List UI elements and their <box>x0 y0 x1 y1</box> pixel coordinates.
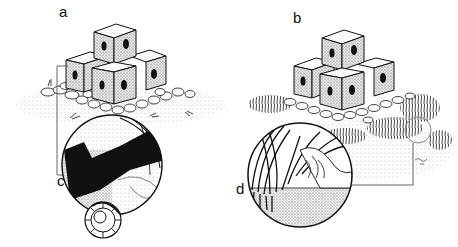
panel-label-d: d <box>236 181 244 196</box>
panel-a-scene <box>15 24 225 125</box>
reef-cubes-b <box>294 30 394 110</box>
panel-label-a: a <box>59 4 67 19</box>
panel-label-c: c <box>57 173 65 188</box>
inset-c <box>62 115 165 238</box>
illustration-canvas <box>0 0 458 247</box>
reef-cube-illustration: a b c d <box>0 0 458 247</box>
nautilus-shell <box>85 202 121 238</box>
panel-label-b: b <box>293 10 301 25</box>
